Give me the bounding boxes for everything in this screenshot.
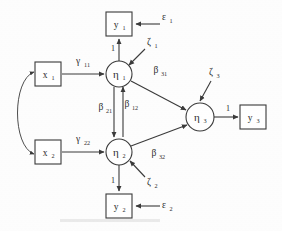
node-x1: x 1 [35,62,61,86]
path-zeta3-to-eta3 [200,81,211,101]
label-eps1-base: ε [162,12,166,22]
label-beta21: β 21 [99,102,113,114]
label-eps2: ε 2 [162,200,173,212]
label-beta32-subscript: 32 [159,153,165,160]
label-zeta1-subscript: 1 [154,42,157,49]
label-zeta2-base: ζ [147,177,151,188]
label-gamma22-subscript: 22 [84,139,90,146]
node-y3-label: y [248,113,253,123]
label-beta12: β 12 [125,99,139,111]
node-eta1-subscript: 1 [122,74,125,81]
label-loading-eta3-y3: 1 [226,104,230,113]
label-beta12-subscript: 12 [132,104,138,111]
path-zeta2-to-eta2 [130,161,145,177]
label-gamma11: γ 11 [75,56,90,68]
label-gamma22-base: γ [75,134,80,144]
node-eta3-subscript: 3 [203,117,206,124]
node-y3: y 3 [240,105,266,129]
node-x2: x 2 [35,140,61,164]
label-eps2-subscript: 2 [169,205,172,212]
label-beta32: β 32 [152,148,166,160]
node-x1-subscript: 1 [51,74,54,81]
label-zeta2-subscript: 2 [154,182,157,189]
node-eta3-label: η [194,111,200,123]
label-zeta3-base: ζ [209,67,213,78]
node-eta2-subscript: 2 [122,152,125,159]
sem-diagram-svg: y 1 y 2 y 3 x 1 x 2 η [0,0,282,231]
node-eta3: η 3 [186,103,214,131]
label-zeta3-subscript: 3 [216,72,219,79]
label-zeta1-base: ζ [147,37,151,48]
node-eta1: η 1 [106,61,132,87]
label-beta12-base: β [125,99,130,109]
node-y1-subscript: 1 [122,24,125,31]
node-y2-label: y [114,202,119,212]
node-y2: y 2 [106,194,132,218]
node-eta2: η 2 [106,139,132,165]
label-eps2-base: ε [162,200,166,210]
label-beta31-subscript: 31 [161,70,167,77]
node-y1-label: y [114,20,119,30]
label-gamma22: γ 22 [75,134,90,146]
label-beta31: β 31 [154,65,168,77]
path-diagram-canvas: y 1 y 2 y 3 x 1 x 2 η [0,0,282,231]
node-y3-subscript: 3 [256,117,259,124]
node-y2-subscript: 2 [122,206,125,213]
label-gamma11-subscript: 11 [84,61,90,68]
label-beta31-base: β [154,65,159,75]
label-eps1-subscript: 1 [169,17,172,24]
label-zeta2: ζ 2 [147,177,158,189]
label-loading-eta1-y1: 1 [111,44,115,53]
label-gamma11-base: γ [75,56,80,66]
covariance-path-x1-x2 [18,72,35,154]
label-zeta1: ζ 1 [147,37,158,49]
node-x2-label: x [43,148,48,158]
label-loading-eta2-y2: 1 [111,176,115,185]
label-beta21-subscript: 21 [106,107,112,114]
label-beta21-base: β [99,102,104,112]
node-x1-label: x [43,70,48,80]
node-eta1-label: η [113,68,119,80]
node-x2-subscript: 2 [51,152,54,159]
node-eta2-label: η [113,146,119,158]
label-zeta3: ζ 3 [209,67,220,79]
label-beta32-base: β [152,148,157,158]
path-eta2-to-eta3 [131,125,187,146]
path-zeta1-to-eta1 [129,49,145,65]
label-eps1: ε 1 [162,12,173,24]
path-eta1-to-eta3 [131,81,186,110]
node-y1: y 1 [106,12,132,36]
